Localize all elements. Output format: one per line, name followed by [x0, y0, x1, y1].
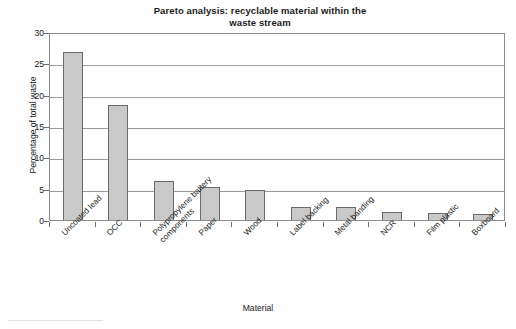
x-tick-mark — [459, 222, 460, 227]
gridline — [50, 65, 504, 66]
x-tick-mark — [368, 222, 369, 227]
plot-area — [49, 33, 505, 221]
x-tick-mark — [231, 222, 232, 227]
y-tick-label: 15 — [24, 122, 44, 132]
y-tick-label: 5 — [24, 185, 44, 195]
y-tick-mark — [44, 127, 49, 128]
y-tick-mark — [44, 64, 49, 65]
bar[interactable] — [108, 105, 128, 220]
x-tick-mark — [414, 222, 415, 227]
bar[interactable] — [245, 190, 265, 220]
y-tick-mark — [44, 33, 49, 34]
x-tick-label: OCC — [105, 218, 125, 238]
y-tick-label: 0 — [24, 216, 44, 226]
chart-title-line-1: Pareto analysis: recyclable material wit… — [110, 5, 410, 17]
gridline — [50, 97, 504, 98]
x-tick-mark — [95, 222, 96, 227]
y-tick-label: 25 — [24, 59, 44, 69]
page-edge-artifact — [8, 320, 103, 321]
x-tick-mark — [186, 222, 187, 227]
bar[interactable] — [63, 52, 83, 220]
chart-title-line-2: waste stream — [110, 17, 410, 29]
y-tick-label: 20 — [24, 91, 44, 101]
chart-root: Pareto analysis: recyclable material wit… — [0, 0, 516, 329]
x-tick-mark — [140, 222, 141, 227]
y-tick-label: 30 — [24, 28, 44, 38]
y-tick-mark — [44, 158, 49, 159]
y-tick-label: 10 — [24, 153, 44, 163]
x-tick-mark — [505, 222, 506, 227]
x-tick-mark — [277, 222, 278, 227]
x-tick-label: NCR — [379, 218, 399, 238]
chart-title: Pareto analysis: recyclable material wit… — [110, 5, 410, 29]
x-axis-title: Material — [0, 303, 516, 313]
y-tick-mark — [44, 190, 49, 191]
x-tick-mark — [323, 222, 324, 227]
x-tick-mark — [49, 222, 50, 227]
y-tick-mark — [44, 96, 49, 97]
